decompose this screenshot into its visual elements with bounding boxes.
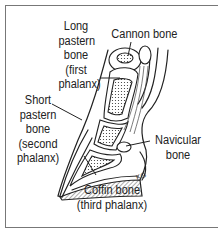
label-coffin-bone: Coffin bone (third phalanx): [77, 183, 147, 212]
label-long-pastern-bone: Long pastern bone (first phalanx): [58, 19, 93, 92]
label-cannon-bone: Cannon bone: [111, 27, 174, 42]
label-short-pastern-bone: Short pastern bone (second phalanx): [16, 93, 60, 166]
label-navicular-bone: Navicular bone: [153, 133, 202, 162]
